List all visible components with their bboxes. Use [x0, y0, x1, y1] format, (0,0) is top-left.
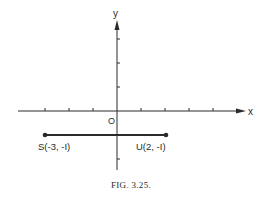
- y-axis-arrow-icon: [115, 20, 120, 30]
- point-s-label: S(-3, -I): [38, 141, 70, 152]
- x-axis: x: [18, 106, 253, 117]
- x-axis-label: x: [248, 106, 253, 117]
- figure-caption: FIG. 3.25.: [111, 180, 151, 190]
- y-axis: y: [113, 8, 120, 170]
- point-u-label: U(2, -I): [136, 141, 166, 152]
- point-u: [164, 133, 169, 138]
- origin-label: O: [108, 116, 115, 126]
- y-axis-label: y: [113, 8, 118, 19]
- point-s: [43, 133, 48, 138]
- coordinate-plane-figure: x y O S(-3, -I) U(2, -I) FIG. 3.25.: [0, 0, 265, 201]
- x-axis-arrow-icon: [236, 109, 246, 114]
